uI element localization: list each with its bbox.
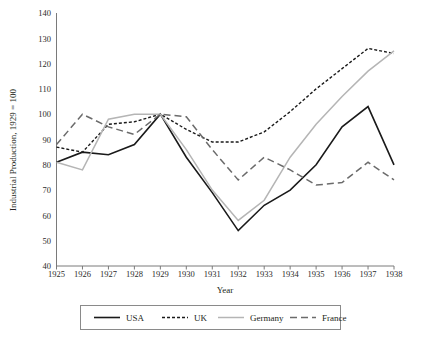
x-tick-label: 1926: [74, 269, 91, 279]
chart-canvas: 405060708090100110120130140 192519261927…: [0, 0, 421, 341]
x-axis-title: Year: [217, 285, 234, 295]
x-tick-label: 1937: [360, 269, 377, 279]
y-axis-title: Industrial Production, 1929 = 100: [8, 89, 18, 211]
series-line-uk: [57, 48, 395, 152]
x-tick-label: 1935: [308, 269, 325, 279]
x-tick-label: 1925: [48, 269, 65, 279]
x-axis-tick-labels: 1925192619271928192919301931193219331934…: [48, 269, 403, 279]
industrial-production-chart: 405060708090100110120130140 192519261927…: [0, 0, 421, 341]
legend-label-uk: UK: [194, 313, 207, 323]
y-tick-label: 120: [38, 59, 51, 69]
x-tick-label: 1932: [230, 269, 247, 279]
x-tick-label: 1938: [386, 269, 403, 279]
y-axis-tick-labels: 405060708090100110120130140: [38, 8, 51, 271]
legend-label-france: France: [322, 313, 347, 323]
x-tick-label: 1929: [152, 269, 169, 279]
legend: USAUKGermanyFrance: [94, 313, 347, 323]
x-tick-label: 1928: [126, 269, 143, 279]
x-tick-label: 1936: [334, 269, 351, 279]
legend-label-germany: Germany: [250, 313, 284, 323]
x-tick-label: 1934: [282, 269, 300, 279]
x-tick-label: 1927: [100, 269, 117, 279]
y-tick-label: 110: [39, 84, 51, 94]
legend-label-usa: USA: [126, 313, 145, 323]
x-tick-label: 1930: [178, 269, 195, 279]
x-tick-label: 1931: [204, 269, 221, 279]
y-tick-label: 70: [43, 185, 52, 195]
y-tick-label: 140: [38, 8, 51, 18]
y-tick-label: 60: [43, 211, 52, 221]
y-tick-label: 50: [43, 236, 52, 246]
series-lines: [57, 48, 395, 230]
y-tick-label: 130: [38, 34, 51, 44]
y-tick-label: 80: [43, 160, 52, 170]
y-tick-label: 90: [43, 135, 52, 145]
x-tick-label: 1933: [256, 269, 273, 279]
series-line-germany: [57, 51, 395, 221]
y-tick-label: 100: [38, 109, 51, 119]
